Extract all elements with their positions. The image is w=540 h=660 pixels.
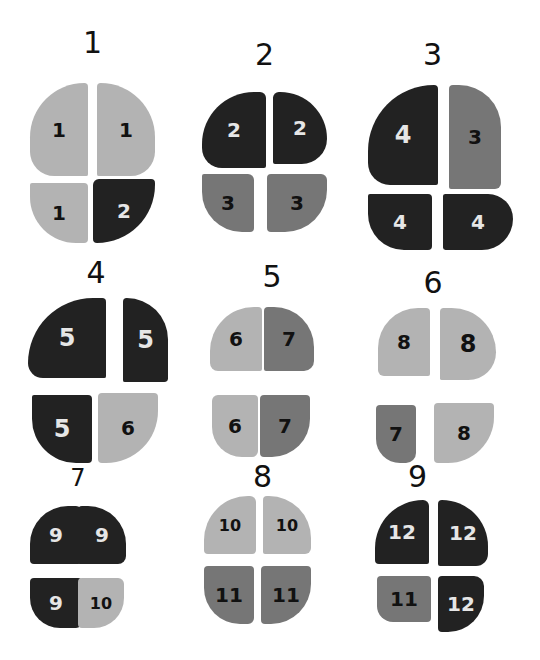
quadrant-top-right: 2: [273, 92, 327, 164]
quadrant-bottom-right: 4: [443, 194, 513, 250]
quadrant-top-right: 7: [264, 307, 314, 371]
quadrant-bottom-left: 11: [204, 566, 254, 624]
quadrant-top-left: 6: [210, 307, 262, 371]
quadrant-bottom-left: 11: [377, 576, 431, 622]
quadrant-bottom-left: 9: [30, 578, 82, 628]
quadrant-top-right: 8: [440, 308, 496, 380]
quadrant-bottom-left: 3: [202, 174, 254, 232]
quadrant-bottom-right: 7: [260, 395, 310, 457]
quadrant-top-right: 1: [97, 83, 155, 176]
quadrant-top-left: 5: [28, 298, 106, 378]
quadrant-top-left: 10: [204, 496, 256, 554]
figure-label: 3: [360, 40, 505, 70]
figure-label: 4: [26, 258, 166, 288]
figure-label: 9: [355, 462, 480, 492]
figure-label: 6: [368, 268, 498, 298]
figure-8: 8 10 10 11 11: [202, 462, 327, 642]
figure-7: 7 9 9 9 10: [28, 466, 148, 646]
quadrant-bottom-left: 7: [376, 405, 416, 463]
figure-2: 2 2 2 3 3: [202, 40, 327, 240]
quadrant-bottom-left: 5: [32, 395, 92, 463]
figure-label: 7: [18, 466, 138, 490]
quadrant-bottom-right: 12: [438, 576, 484, 632]
quadrant-top-right: 5: [123, 298, 168, 382]
figure-label: 2: [202, 40, 327, 70]
figure-4: 4 5 5 5 6: [28, 258, 168, 463]
quadrant-bottom-right: 3: [267, 174, 327, 232]
quadrant-bottom-left: 1: [30, 183, 88, 243]
figure-9: 9 12 12 11 12: [375, 462, 500, 647]
quadrant-top-right: 3: [449, 85, 501, 189]
quadrant-top-left: 1: [30, 83, 88, 176]
quadrant-bottom-left: 4: [368, 194, 432, 250]
quadrant-top-left: 8: [378, 308, 430, 376]
quadrant-bottom-left: 6: [212, 395, 258, 457]
figure-3: 3 4 3 4 4: [368, 40, 513, 255]
quadrant-top-left: 9: [30, 506, 82, 564]
quadrant-bottom-right: 11: [261, 566, 311, 624]
quadrant-bottom-right: 10: [78, 578, 124, 628]
quadrant-top-right: 10: [263, 496, 311, 554]
figure-label: 8: [200, 462, 325, 492]
quadrant-top-right: 9: [78, 506, 126, 564]
figure-label: 5: [212, 262, 332, 292]
figure-1: 1 1 1 1 2: [30, 28, 155, 248]
quadrant-top-left: 2: [202, 92, 266, 168]
quadrant-top-left: 4: [368, 85, 438, 185]
quadrant-bottom-right: 8: [434, 403, 494, 463]
quadrant-bottom-right: 2: [93, 179, 155, 243]
quadrant-top-left: 12: [375, 500, 429, 564]
figure-5: 5 6 7 6 7: [208, 262, 328, 462]
figure-label: 1: [30, 28, 155, 58]
figure-6: 6 8 8 7 8: [372, 268, 502, 468]
quadrant-bottom-right: 6: [98, 393, 158, 463]
quadrant-top-right: 12: [438, 500, 488, 566]
